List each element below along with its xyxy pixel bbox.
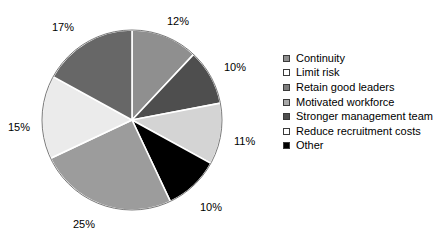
legend-item-label: Stronger management team bbox=[296, 111, 433, 122]
pie-value-label: 11% bbox=[234, 136, 255, 147]
legend-item-label: Continuity bbox=[296, 53, 345, 64]
legend-swatch-icon bbox=[283, 142, 290, 149]
legend-swatch-icon bbox=[283, 99, 290, 106]
chart-legend: ContinuityLimit riskRetain good leadersM… bbox=[283, 51, 433, 153]
pie-value-label: 10% bbox=[224, 62, 246, 73]
legend-swatch-icon bbox=[283, 84, 290, 91]
legend-item[interactable]: Reduce recruitment costs bbox=[283, 124, 433, 139]
legend-swatch-icon bbox=[283, 55, 290, 62]
legend-item[interactable]: Stronger management team bbox=[283, 109, 433, 124]
legend-swatch-icon bbox=[283, 113, 290, 120]
legend-swatch-icon bbox=[283, 128, 290, 135]
pie-value-label: 17% bbox=[52, 22, 74, 33]
legend-item-label: Limit risk bbox=[296, 67, 339, 78]
legend-item-label: Motivated workforce bbox=[296, 97, 394, 108]
legend-swatch-icon bbox=[283, 69, 290, 76]
pie-svg bbox=[0, 0, 270, 245]
pie-chart-figure: 12%10%11%10%25%15%17% ContinuityLimit ri… bbox=[0, 0, 437, 245]
legend-item[interactable]: Other bbox=[283, 139, 433, 154]
pie-value-label: 10% bbox=[200, 202, 222, 213]
pie-value-label: 25% bbox=[73, 219, 95, 230]
legend-item[interactable]: Retain good leaders bbox=[283, 80, 433, 95]
legend-item-label: Other bbox=[296, 140, 324, 151]
legend-item-label: Reduce recruitment costs bbox=[296, 126, 421, 137]
pie-value-label: 15% bbox=[8, 122, 30, 133]
legend-item[interactable]: Motivated workforce bbox=[283, 95, 433, 110]
pie-value-label: 12% bbox=[167, 16, 189, 27]
legend-item-label: Retain good leaders bbox=[296, 82, 394, 93]
legend-item[interactable]: Continuity bbox=[283, 51, 433, 66]
pie-plot-area: 12%10%11%10%25%15%17% bbox=[0, 0, 270, 245]
pie-slice-group bbox=[42, 30, 222, 210]
legend-item[interactable]: Limit risk bbox=[283, 66, 433, 81]
